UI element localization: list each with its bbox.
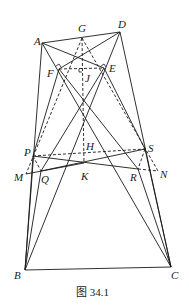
label-J: J	[85, 72, 91, 84]
right-angle-J	[79, 69, 82, 72]
label-D: D	[117, 18, 126, 30]
label-K: K	[80, 170, 89, 182]
label-R: R	[129, 171, 137, 183]
segment-QB	[25, 171, 41, 270]
label-C: C	[171, 269, 179, 281]
right-angle-E	[101, 64, 106, 67]
label-P: P	[23, 146, 31, 158]
label-M: M	[13, 171, 24, 183]
label-A: A	[33, 35, 41, 47]
label-Q: Q	[41, 173, 49, 185]
segment-ES	[104, 68, 145, 149]
segment-PR	[33, 156, 138, 169]
segment-DB	[25, 32, 120, 270]
segment-AC	[42, 43, 171, 267]
figure-caption: 图 34.1	[76, 286, 109, 298]
segment-RN	[138, 169, 158, 171]
label-B: B	[14, 269, 21, 281]
label-G: G	[78, 22, 86, 34]
right-angle-marks	[56, 64, 106, 72]
segment-SR	[138, 149, 145, 169]
label-N: N	[159, 168, 168, 180]
label-E: E	[108, 62, 116, 74]
dashed-segments	[26, 38, 158, 174]
segment-BC	[25, 267, 171, 270]
segment-EQ	[41, 68, 104, 171]
segment-FE	[59, 68, 104, 69]
label-F: F	[46, 67, 54, 79]
segment-SC	[145, 149, 171, 267]
point-labels: A D G F E J P S H M Q K R N B C	[13, 18, 179, 281]
segment-MK	[26, 163, 84, 174]
right-angle-F	[56, 64, 61, 67]
label-H: H	[85, 140, 95, 152]
segment-PQ	[33, 156, 41, 171]
geometry-figure: A D G F E J P S H M Q K R N B C 图 34.1	[0, 0, 189, 307]
segment-AE	[42, 43, 104, 68]
label-S: S	[148, 142, 154, 154]
